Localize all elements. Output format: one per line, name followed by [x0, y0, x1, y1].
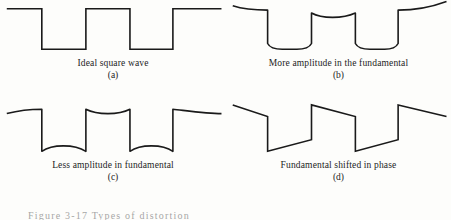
- panel-a: Ideal square wave (a): [0, 0, 226, 102]
- ideal-square-wave: [0, 0, 226, 58]
- less-amplitude-fundamental-wave-svg: [0, 102, 226, 160]
- waveform-trace: [233, 1, 447, 49]
- panel-d-letter: (d): [333, 172, 344, 184]
- fundamental-shifted-phase-wave-svg: [226, 102, 451, 160]
- panel-d-caption: Fundamental shifted in phase: [281, 160, 397, 172]
- waveform-trace: [7, 109, 222, 151]
- more-amplitude-fundamental-wave: [226, 0, 451, 58]
- panel-grid: Ideal square wave (a) More amplitude in …: [0, 0, 451, 204]
- figure-caption: Figure 3-17 Types of distortion: [28, 210, 428, 220]
- more-amplitude-fundamental-wave-svg: [226, 0, 451, 58]
- fundamental-shifted-phase-wave: [226, 102, 451, 160]
- panel-b-caption: More amplitude in the fundamental: [269, 58, 409, 70]
- panel-c: Less amplitude in fundamental (c): [0, 102, 226, 204]
- panel-d: Fundamental shifted in phase (d): [226, 102, 451, 204]
- panel-c-letter: (c): [108, 172, 119, 184]
- panel-a-letter: (a): [108, 70, 119, 82]
- waveform-trace: [233, 105, 447, 151]
- panel-b: More amplitude in the fundamental (b): [226, 0, 451, 102]
- less-amplitude-fundamental-wave: [0, 102, 226, 160]
- ideal-square-wave-svg: [0, 0, 226, 58]
- figure-sheet: Ideal square wave (a) More amplitude in …: [0, 0, 451, 220]
- panel-a-caption: Ideal square wave: [77, 58, 148, 70]
- panel-c-caption: Less amplitude in fundamental: [52, 160, 174, 172]
- panel-b-letter: (b): [333, 70, 344, 82]
- waveform-trace: [7, 9, 222, 50]
